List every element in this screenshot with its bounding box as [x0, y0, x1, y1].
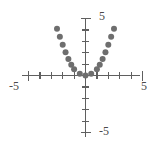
x-axis-max-label: 5	[141, 80, 147, 92]
scatter-plot-canvas	[0, 0, 159, 147]
x-axis-min-label: -5	[9, 80, 19, 92]
data-point	[54, 26, 60, 32]
data-point	[60, 42, 66, 48]
data-point	[88, 71, 94, 77]
chart-figure: 5 -5 5 -5	[0, 0, 159, 147]
data-point	[57, 34, 63, 40]
data-point	[63, 49, 69, 55]
data-point	[83, 73, 89, 79]
y-axis-min-label: -5	[99, 125, 109, 137]
data-point	[77, 71, 83, 77]
data-point	[102, 49, 108, 55]
data-point	[111, 26, 117, 32]
data-point	[71, 66, 77, 72]
data-point	[108, 34, 114, 40]
data-point	[105, 42, 111, 48]
y-axis-max-label: 5	[99, 10, 105, 22]
data-point	[97, 62, 103, 68]
data-point	[65, 56, 71, 62]
data-point	[100, 56, 106, 62]
